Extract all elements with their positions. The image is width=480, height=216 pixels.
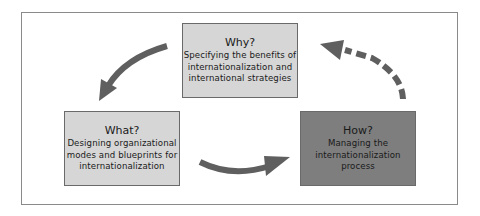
node-what-description: Designing organizational modes and bluep… (67, 138, 178, 173)
node-how: How? Managing the internationalization p… (300, 111, 416, 186)
node-why: Why? Specifying the benefits of internat… (182, 23, 298, 98)
arrow-what-to-how-icon (200, 156, 290, 176)
node-how-description: Managing the internationalization proces… (315, 138, 400, 173)
arrow-why-to-what-icon (99, 46, 167, 101)
node-what: What? Designing organizational modes and… (64, 111, 180, 186)
node-why-title: Why? (225, 36, 255, 49)
node-what-title: What? (105, 124, 140, 137)
node-how-title: How? (343, 124, 373, 137)
arrow-how-to-why-icon (320, 40, 403, 99)
node-why-description: Specifying the benefits of international… (184, 50, 296, 85)
